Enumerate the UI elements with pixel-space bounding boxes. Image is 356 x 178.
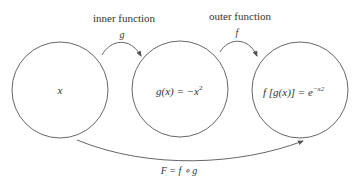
domain-label: x bbox=[57, 84, 63, 96]
composite-function-arrow bbox=[77, 140, 303, 161]
outer-function-symbol: f bbox=[236, 27, 240, 38]
composite-function-label: F = f ∘ g bbox=[160, 165, 198, 176]
outer-formula: f [g(x)] = e−x2 bbox=[263, 85, 325, 99]
outer-function-title: outer function bbox=[209, 10, 272, 22]
outer-formula-main: f [g(x)] = e bbox=[263, 86, 313, 99]
inner-function-title: inner function bbox=[93, 12, 156, 24]
outer-formula-exponent: −x2 bbox=[313, 85, 325, 93]
inner-formula-exponent: 2 bbox=[199, 84, 203, 92]
inner-formula-main: g(x) = −x bbox=[156, 85, 199, 98]
inner-function-symbol: g bbox=[120, 29, 125, 40]
outer-function-arrow bbox=[220, 41, 257, 56]
inner-formula: g(x) = −x2 bbox=[156, 84, 203, 98]
composition-diagram: inner function g outer function f F = f … bbox=[0, 0, 356, 178]
inner-function-arrow bbox=[102, 42, 141, 56]
